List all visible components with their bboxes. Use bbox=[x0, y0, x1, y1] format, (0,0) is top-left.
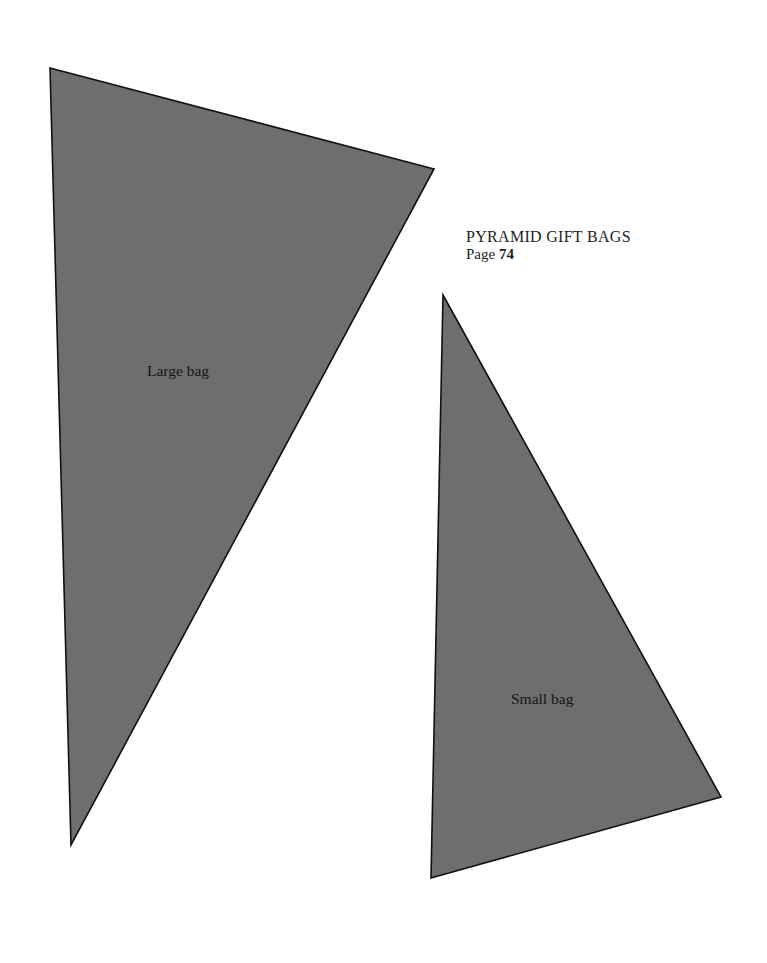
small-bag-template bbox=[431, 295, 721, 878]
templates-canvas bbox=[0, 0, 767, 963]
page-reference: Page 74 bbox=[466, 246, 631, 263]
heading-block: PYRAMID GIFT BAGS Page 74 bbox=[466, 228, 631, 263]
large-bag-template bbox=[50, 68, 434, 845]
page-title: PYRAMID GIFT BAGS bbox=[466, 228, 631, 246]
large-bag-label: Large bag bbox=[147, 362, 209, 380]
page-number: 74 bbox=[499, 246, 514, 262]
page-prefix: Page bbox=[466, 246, 495, 262]
small-bag-label: Small bag bbox=[511, 690, 573, 708]
